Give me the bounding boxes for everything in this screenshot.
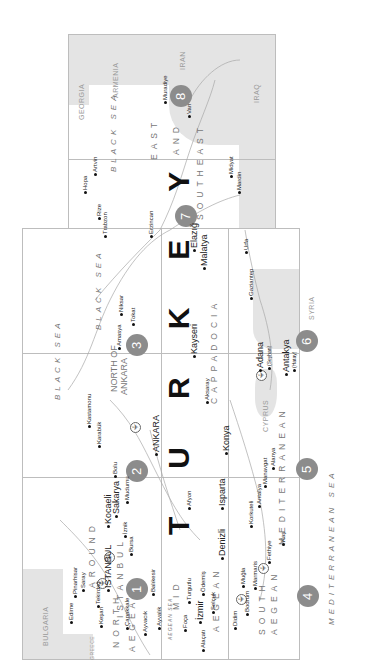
country-label-iraq: IRAQ bbox=[253, 84, 260, 103]
city-label-korkuteli: Korkuteli bbox=[248, 501, 254, 528]
city-label-urfa: Urfa bbox=[243, 239, 249, 254]
region-badge-4[interactable]: 4 bbox=[297, 585, 319, 607]
city-label-trabzon: Trabzon bbox=[102, 212, 108, 238]
city-label-turgutlu: Turgutlu bbox=[186, 578, 192, 604]
region-label-cappadocia: CAPPADOCIA bbox=[210, 299, 219, 404]
city-label-ankara: ANKARA bbox=[152, 415, 161, 456]
city-label-izmir: İzmir bbox=[196, 601, 205, 625]
region-label-around: AROUND bbox=[88, 521, 97, 588]
country-label-greece: GREECE bbox=[90, 636, 95, 660]
city-label-edirne: Edirne bbox=[68, 603, 74, 624]
city-label-tokat: Tokat bbox=[130, 308, 136, 326]
city-label-bolu: Bolu bbox=[112, 462, 118, 478]
city-label-balikesir: Balıkesir bbox=[150, 569, 156, 596]
city-label-kas: Kaş bbox=[280, 532, 286, 546]
city-label-gaziantep: Gaziantep bbox=[248, 269, 254, 300]
city-label-erzincan: Erzincan bbox=[148, 211, 154, 238]
sea-label-black-sea: BLACK SEA bbox=[54, 320, 62, 400]
city-label-muradiye: Muradiye bbox=[162, 75, 168, 104]
sea-label-black-sea: BLACK SEA bbox=[95, 250, 103, 330]
region-label-mediterranean: MEDITERRANEAN bbox=[278, 406, 287, 545]
city-label-antakya-sub: (Hatay) bbox=[292, 352, 297, 372]
badge-number: 6 bbox=[299, 337, 314, 344]
city-label-isparta: Isparta bbox=[218, 478, 227, 510]
airport-icon: ✈ bbox=[130, 422, 141, 433]
city-label-afyon: Afyon bbox=[186, 491, 192, 510]
city-label-ayvalik: Ayvalık bbox=[156, 607, 162, 630]
region-label-ankara: ANKARA bbox=[120, 358, 129, 395]
region-label-mid: MID bbox=[172, 579, 181, 610]
city-label-foca: Foça bbox=[182, 615, 188, 632]
region-label-north-of: NORTH OF bbox=[110, 345, 119, 392]
city-label-adana: Adana bbox=[256, 342, 265, 372]
region-label-south: SOUTH bbox=[258, 580, 267, 635]
country-label-syria: SYRIA bbox=[308, 296, 315, 320]
city-label-kesan: Keşan bbox=[98, 607, 104, 628]
region-badge-6[interactable]: 6 bbox=[296, 330, 318, 352]
city-label-bodrum: Bodrum bbox=[244, 591, 250, 616]
city-label-fethiye: Fethiye bbox=[266, 540, 272, 564]
badge-number: 4 bbox=[300, 592, 315, 599]
city-label-odemis: Ödemiş bbox=[200, 571, 206, 596]
city-label-karabuk: Karabük bbox=[96, 422, 102, 448]
city-label-kayseri: Kayseri bbox=[190, 324, 199, 358]
city-label-alanya: Alanya bbox=[270, 448, 276, 470]
badge-number: 2 bbox=[129, 467, 144, 474]
city-label-denizli: Denizli bbox=[218, 529, 227, 560]
badge-number: 1 bbox=[129, 585, 144, 592]
city-label-canakkale: Çanakkale bbox=[124, 598, 130, 630]
city-label-selcuk: Selçuk bbox=[210, 592, 216, 614]
city-label-hopa: Hopa bbox=[82, 176, 88, 194]
country-label-iran: IRAN bbox=[179, 51, 186, 70]
badge-number: 8 bbox=[173, 92, 188, 99]
city-label-van: Van bbox=[186, 104, 192, 118]
badge-number: 3 bbox=[129, 341, 144, 348]
region-label-aegean-south: AEGEAN bbox=[270, 570, 279, 635]
city-label-elazig: Elazığ bbox=[190, 223, 199, 252]
city-label-konya: Konya bbox=[222, 425, 231, 455]
region-label-north: NORTH bbox=[112, 593, 121, 648]
city-label-marmaris: Marmaris bbox=[252, 561, 258, 590]
city-label-artvin: Artvin bbox=[92, 157, 98, 176]
city-label-mardin: Mardin bbox=[236, 172, 242, 194]
city-label-adana-sub: (Seyhan) bbox=[267, 346, 272, 370]
city-label-alacati: Alaçatı bbox=[200, 630, 206, 652]
city-label-mugla: Muğla bbox=[240, 568, 246, 588]
badge-number: 5 bbox=[299, 465, 314, 472]
region-badge-3[interactable]: 3 bbox=[126, 334, 148, 356]
city-label-aksaray: Aksaray bbox=[204, 378, 210, 404]
sea-label-mediterranean: MEDITERRANEAN SEA bbox=[328, 469, 336, 625]
region-badge-5[interactable]: 5 bbox=[296, 458, 318, 480]
city-label-kocaeli: Kocaeli bbox=[104, 494, 113, 528]
region-label-east: EAST bbox=[150, 118, 159, 160]
city-label-ayvacik: Ayvacık bbox=[142, 611, 148, 636]
country-label-cyprus: CYPRUS bbox=[262, 400, 269, 432]
region-label-southeast: SOUTHEAST bbox=[196, 123, 205, 220]
city-label-sakarya: Sakarya bbox=[112, 481, 121, 518]
city-label-malatya: Malatya bbox=[200, 234, 209, 270]
city-label-tekirdag: Tekirdağ bbox=[95, 581, 101, 608]
city-label-niksar: Niksar bbox=[118, 295, 124, 316]
city-label-didim: Didim bbox=[232, 611, 238, 630]
city-label-amasya: Amasya bbox=[116, 324, 122, 350]
sea-label-black-sea: BLACK SEA bbox=[110, 92, 118, 172]
city-label-mudurnu: Mudurnu bbox=[124, 476, 130, 504]
city-label-kastamonu: Kastamonu bbox=[86, 394, 92, 428]
city-label-midyat: Midyat bbox=[228, 156, 234, 178]
city-label-antakya: Antakya bbox=[282, 339, 291, 376]
city-label-istanbul: ISTANBUL bbox=[104, 545, 113, 592]
city-label-manavgat: Manavgat bbox=[262, 458, 268, 488]
city-label-bursa: Bursa bbox=[128, 536, 134, 556]
country-label-bulgaria: BULGARIA bbox=[42, 607, 49, 646]
country-label-georgia: GEORGIA bbox=[78, 84, 85, 120]
airport-icon: ✈ bbox=[258, 563, 269, 574]
city-label-pinarhisar: Pinarhisar bbox=[72, 567, 78, 598]
city-label-saray: Saray bbox=[80, 572, 86, 592]
badge-number: 7 bbox=[178, 212, 193, 219]
